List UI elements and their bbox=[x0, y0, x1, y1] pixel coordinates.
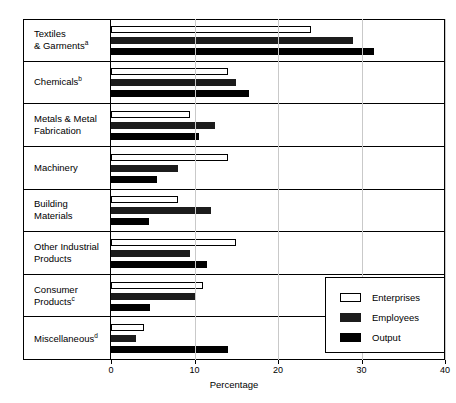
category-row: Other IndustrialProducts bbox=[23, 232, 445, 275]
bar-output bbox=[111, 218, 149, 225]
category-label: BuildingMaterials bbox=[23, 190, 110, 232]
bar-output bbox=[111, 346, 228, 353]
category-label: Metals & MetalFabrication bbox=[23, 104, 110, 146]
category-label: Other IndustrialProducts bbox=[23, 232, 110, 274]
gridline bbox=[195, 19, 196, 360]
bar-enterprises bbox=[111, 68, 228, 75]
legend-swatch-output bbox=[340, 333, 361, 342]
bar-chart: Textiles& GarmentsaChemicalsbMetals & Me… bbox=[0, 0, 456, 403]
category-row: Textiles& Garmentsa bbox=[23, 19, 445, 62]
bar-enterprises bbox=[111, 282, 203, 289]
legend-label-employees: Employees bbox=[372, 312, 419, 323]
bar-enterprises bbox=[111, 26, 311, 33]
x-axis-tick bbox=[278, 360, 279, 364]
category-row: Machinery bbox=[23, 147, 445, 190]
legend-item-employees: Employees bbox=[340, 307, 444, 327]
bar-output bbox=[111, 48, 374, 55]
x-axis-tick-label: 40 bbox=[430, 365, 456, 375]
gridline bbox=[278, 19, 279, 360]
category-row: Metals & MetalFabrication bbox=[23, 104, 445, 147]
legend-swatch-enterprises bbox=[340, 293, 361, 302]
bar-employees bbox=[111, 79, 236, 86]
category-row: BuildingMaterials bbox=[23, 190, 445, 233]
x-axis-tick-label: 0 bbox=[96, 365, 126, 375]
bar-output bbox=[111, 304, 150, 311]
bar-employees bbox=[111, 37, 353, 44]
category-label: Textiles& Garmentsa bbox=[23, 19, 110, 61]
bar-employees bbox=[111, 165, 178, 172]
x-axis-tick bbox=[362, 360, 363, 364]
x-axis-title: Percentage bbox=[23, 379, 445, 390]
category-label: ConsumerProductsc bbox=[23, 275, 110, 317]
bar-employees bbox=[111, 207, 211, 214]
x-axis: 010203040 Percentage bbox=[23, 360, 445, 403]
legend-swatch-employees bbox=[340, 313, 361, 322]
x-axis-tick-label: 10 bbox=[180, 365, 210, 375]
bar-output bbox=[111, 90, 249, 97]
bar-enterprises bbox=[111, 196, 178, 203]
bar-employees bbox=[111, 293, 195, 300]
gridline bbox=[445, 19, 446, 360]
category-row: Chemicalsb bbox=[23, 62, 445, 105]
x-axis-tick-label: 20 bbox=[263, 365, 293, 375]
legend: Enterprises Employees Output bbox=[325, 277, 445, 353]
x-axis-tick-label: 30 bbox=[347, 365, 377, 375]
x-axis-tick bbox=[195, 360, 196, 364]
bar-employees bbox=[111, 122, 215, 129]
category-label: Machinery bbox=[23, 147, 110, 189]
legend-item-output: Output bbox=[340, 327, 444, 347]
legend-item-enterprises: Enterprises bbox=[340, 287, 444, 307]
bar-output bbox=[111, 176, 157, 183]
bar-enterprises bbox=[111, 154, 228, 161]
bar-employees bbox=[111, 335, 136, 342]
bar-enterprises bbox=[111, 239, 236, 246]
bar-output bbox=[111, 133, 199, 140]
category-label: Miscellaneousd bbox=[23, 317, 110, 360]
bar-output bbox=[111, 261, 207, 268]
legend-label-output: Output bbox=[372, 332, 401, 343]
x-axis-tick bbox=[111, 360, 112, 364]
bar-enterprises bbox=[111, 324, 144, 331]
bar-employees bbox=[111, 250, 190, 257]
x-axis-tick bbox=[445, 360, 446, 364]
bar-enterprises bbox=[111, 111, 190, 118]
legend-label-enterprises: Enterprises bbox=[372, 292, 420, 303]
category-label: Chemicalsb bbox=[23, 62, 110, 104]
